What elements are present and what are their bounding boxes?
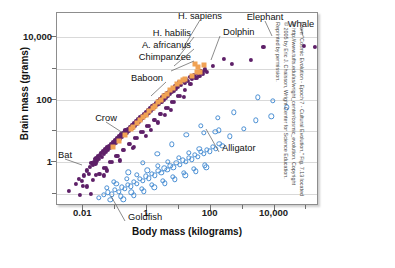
data-point-primates-and-hominids <box>131 124 136 129</box>
data-point-fish-reptiles-amphibians <box>128 184 133 189</box>
data-point-fish-reptiles-amphibians <box>122 186 127 191</box>
data-point-mammals-and-birds <box>249 58 253 62</box>
annotation-elephant: Elephant <box>247 12 284 22</box>
x-axis-tick-labels: 0.01110010,000 <box>56 207 318 223</box>
annotation-h-sapiens: H. sapiens <box>178 11 222 21</box>
data-point-primates-and-hominids <box>180 77 185 82</box>
data-point-primates-and-hominids <box>143 112 148 117</box>
data-point-mammals-and-birds <box>195 76 199 80</box>
data-point-mammals-and-birds <box>110 160 114 164</box>
y-tick-label: 1 <box>47 156 52 167</box>
data-point-primates-and-hominids <box>137 118 142 123</box>
data-point-fish-reptiles-amphibians <box>140 178 145 183</box>
credit-line-1: From "Cosmic Evolution - Epoch 7 - Cultu… <box>298 22 306 204</box>
data-point-fish-reptiles-amphibians <box>201 130 206 135</box>
x-tick-label: 100 <box>202 207 218 218</box>
data-point-fish-reptiles-amphibians <box>126 170 131 175</box>
data-point-mammals-and-birds <box>144 133 148 137</box>
data-point-fish-reptiles-amphibians <box>134 181 139 186</box>
data-point-mammals-and-birds <box>261 45 265 49</box>
data-point-fish-reptiles-amphibians <box>215 115 220 120</box>
data-point-primates-and-hominids <box>155 100 160 105</box>
data-point-mammals-and-birds <box>80 179 84 183</box>
data-point-mammals-and-birds <box>134 136 138 140</box>
data-point-mammals-and-birds <box>122 148 126 152</box>
data-point-fish-reptiles-amphibians <box>162 181 167 186</box>
data-point-fish-reptiles-amphibians <box>165 167 170 172</box>
data-point-mammals-and-birds <box>91 178 95 182</box>
data-point-mammals-and-birds <box>229 62 233 66</box>
data-point-primates-and-hominids <box>122 133 127 138</box>
annotation-dolphin: Dolphin <box>223 27 255 37</box>
data-point-mammals-and-birds <box>182 88 186 92</box>
x-axis-title: Body mass (kilograms) <box>56 226 318 237</box>
data-point-fish-reptiles-amphibians <box>231 110 236 115</box>
data-point-mammals-and-birds <box>87 172 91 176</box>
data-point-fish-reptiles-amphibians <box>183 132 188 137</box>
data-point-fish-reptiles-amphibians <box>201 151 206 156</box>
data-point-fish-reptiles-amphibians <box>216 128 221 133</box>
data-point-mammals-and-birds <box>74 182 78 186</box>
annotation-crow: Crow <box>95 113 117 123</box>
data-point-primates-and-hominids <box>189 73 194 78</box>
annotation-h-habilis: H. habilis <box>153 28 191 38</box>
data-point-fish-reptiles-amphibians <box>189 157 194 162</box>
data-point-fish-reptiles-amphibians <box>177 162 182 167</box>
data-point-primates-and-hominids <box>162 94 167 99</box>
data-point-mammals-and-birds <box>181 94 185 98</box>
annotation-alligator: Alligator <box>222 143 256 153</box>
data-point-fish-reptiles-amphibians <box>198 123 203 128</box>
data-point-fish-reptiles-amphibians <box>203 165 208 170</box>
data-point-fish-reptiles-amphibians <box>193 169 198 174</box>
x-tick-label: 10,000 <box>259 207 288 218</box>
data-point-fish-reptiles-amphibians <box>107 197 112 202</box>
x-tick-label: 0.01 <box>73 207 92 218</box>
data-point-mammals-and-birds <box>211 64 215 68</box>
data-point-primates-and-hominids <box>174 82 179 87</box>
data-point-fish-reptiles-amphibians <box>109 192 114 197</box>
y-tick-mark-minor <box>52 193 56 194</box>
data-point-fish-reptiles-amphibians <box>195 154 200 159</box>
data-point-fish-reptiles-amphibians <box>213 146 218 151</box>
data-point-mammals-and-birds <box>82 173 86 177</box>
data-point-mammals-and-birds <box>163 113 167 117</box>
data-point-fish-reptiles-amphibians <box>155 163 160 168</box>
data-point-mammals-and-birds <box>102 173 106 177</box>
y-tick-mark-minor <box>52 68 56 69</box>
y-tick-mark-minor <box>52 130 56 131</box>
data-point-fish-reptiles-amphibians <box>158 170 163 175</box>
data-point-primates-and-hominids <box>201 62 206 67</box>
y-axis-title: Brain mass (grams) <box>19 24 30 164</box>
data-point-fish-reptiles-amphibians <box>253 118 258 123</box>
y-tick-label: 100 <box>36 93 52 104</box>
credit-line-2: at http://www.tufts.edu/as/wright_center… <box>290 22 298 204</box>
annotation-baboon: Baboon <box>131 73 163 83</box>
data-point-fish-reptiles-amphibians <box>121 197 126 202</box>
credit-line-3: © 2005 by Eric J. Chaisson, Wright Cente… <box>282 22 290 204</box>
data-point-fish-reptiles-amphibians <box>227 134 232 139</box>
data-point-mammals-and-birds <box>156 120 160 124</box>
data-point-mammals-and-birds <box>85 184 89 188</box>
data-point-primates-and-hominids <box>150 105 155 110</box>
data-point-fish-reptiles-amphibians <box>131 193 136 198</box>
data-point-fish-reptiles-amphibians <box>152 185 157 190</box>
data-point-mammals-and-birds <box>97 172 101 176</box>
chart-figure: 110010,000 0.01110010,000 Brain mass (gr… <box>0 0 395 268</box>
credit-line-4: Reprinted by permission. <box>274 22 282 204</box>
source-credit: From "Cosmic Evolution - Epoch 7 - Cultu… <box>274 22 306 204</box>
data-point-mammals-and-birds <box>188 82 192 86</box>
data-point-mammals-and-birds <box>67 189 71 193</box>
data-point-fish-reptiles-amphibians <box>183 173 188 178</box>
data-point-primates-and-hominids <box>116 139 121 144</box>
data-point-fish-reptiles-amphibians <box>183 159 188 164</box>
data-point-mammals-and-birds <box>172 100 176 104</box>
data-point-fish-reptiles-amphibians <box>152 173 157 178</box>
data-point-mammals-and-birds <box>89 192 93 196</box>
data-point-primates-and-hominids <box>197 70 202 75</box>
data-point-fish-reptiles-amphibians <box>171 165 176 170</box>
data-point-mammals-and-birds <box>132 145 136 149</box>
data-point-mammals-and-birds <box>222 57 226 61</box>
data-point-fish-reptiles-amphibians <box>186 150 191 155</box>
annotation-bat: Bat <box>58 150 72 160</box>
data-point-fish-reptiles-amphibians <box>96 195 101 200</box>
